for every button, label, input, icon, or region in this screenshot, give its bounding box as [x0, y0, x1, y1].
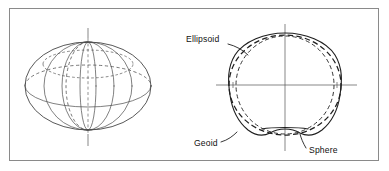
label-geoid: Geoid	[194, 138, 218, 148]
ellipsoid-leader-line	[228, 44, 248, 55]
label-sphere: Sphere	[309, 145, 338, 155]
label-ellipsoid: Ellipsoid	[186, 34, 219, 44]
ellipsoid-wireframe-panel	[25, 28, 151, 146]
sphere-leader-line	[300, 134, 306, 148]
figure-root: Ellipsoid Geoid Sphere	[0, 0, 389, 171]
geoid-comparison-panel: Ellipsoid Geoid Sphere	[186, 24, 357, 155]
geoid-leader-line	[221, 132, 237, 142]
diagram-canvas: Ellipsoid Geoid Sphere	[0, 0, 389, 171]
